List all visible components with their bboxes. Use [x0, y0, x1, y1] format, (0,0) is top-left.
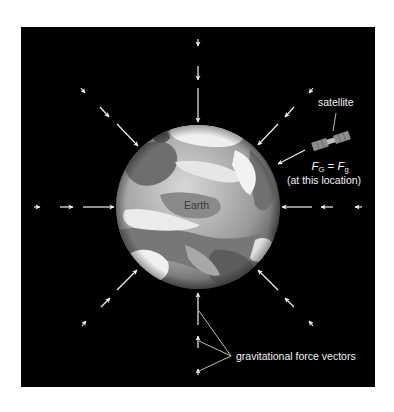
equals-sign: =: [327, 160, 334, 172]
force-subscript-lhs: G: [318, 165, 324, 174]
earth-label: Earth: [184, 200, 209, 211]
force-subscript-rhs: g: [344, 165, 348, 174]
force-equation: FG = Fg: [290, 161, 370, 174]
gravitational-vectors-label: gravitational force vectors: [236, 351, 356, 362]
satellite-label: satellite: [318, 97, 354, 108]
location-note: (at this location): [287, 175, 361, 186]
